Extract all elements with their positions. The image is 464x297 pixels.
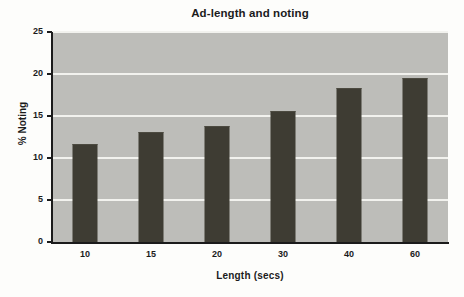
y-tick-mark [47, 73, 52, 75]
y-tick-mark [47, 199, 52, 201]
bar-slot [316, 32, 382, 242]
x-axis-title: Length (secs) [52, 270, 448, 281]
bar[interactable] [337, 88, 362, 242]
y-tick-label: 20 [0, 68, 43, 78]
y-tick-mark [47, 157, 52, 159]
y-axis-title: % Noting [17, 89, 28, 159]
bar[interactable] [271, 111, 296, 242]
x-axis-line [51, 242, 449, 244]
chart-title: Ad-length and noting [52, 7, 448, 19]
x-tick-label: 20 [184, 249, 250, 259]
x-tick-label: 30 [250, 249, 316, 259]
y-tick-label: 5 [0, 194, 43, 204]
x-tick-label: 40 [316, 249, 382, 259]
y-tick-label: 0 [0, 236, 43, 246]
bar-chart-figure: Ad-length and noting 0510152025 10152030… [0, 0, 464, 297]
bar-slot [184, 32, 250, 242]
plot-area [52, 32, 448, 242]
y-axis-line [51, 32, 53, 243]
bar-slot [52, 32, 118, 242]
bar-slot [250, 32, 316, 242]
x-tick-label: 10 [52, 249, 118, 259]
bar[interactable] [403, 78, 428, 242]
bar[interactable] [139, 132, 164, 242]
y-tick-mark [47, 31, 52, 33]
bar[interactable] [205, 126, 230, 242]
bar-slot [118, 32, 184, 242]
bar-slot [382, 32, 448, 242]
bar[interactable] [73, 144, 98, 242]
y-tick-mark [47, 115, 52, 117]
y-tick-label: 25 [0, 26, 43, 36]
bars-layer [52, 32, 448, 242]
x-tick-label: 60 [382, 249, 448, 259]
y-tick-mark [47, 241, 52, 243]
x-tick-label: 15 [118, 249, 184, 259]
